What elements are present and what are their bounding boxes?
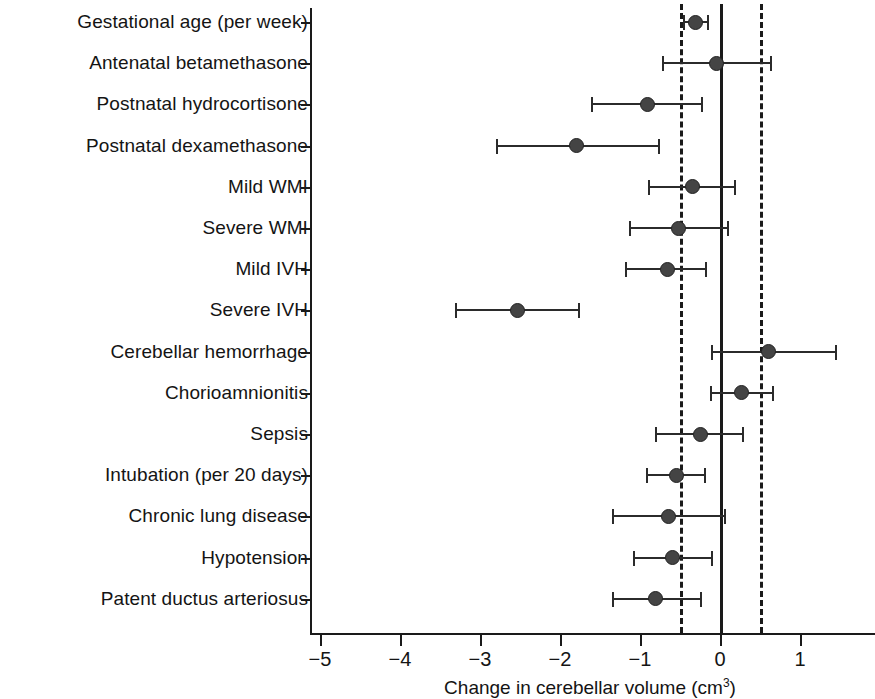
ci-upper-cap — [704, 468, 706, 483]
ci-lower-cap — [612, 509, 614, 524]
x-tick-label: −1 — [610, 648, 670, 671]
x-tick — [560, 635, 562, 646]
ci-lower-cap — [625, 262, 627, 277]
x-axis-label-suffix: ) — [730, 677, 736, 698]
x-tick-label: 0 — [690, 648, 750, 671]
x-tick — [720, 635, 722, 646]
y-tick — [301, 393, 311, 395]
point-estimate-marker — [510, 303, 525, 318]
lower-threshold-line — [680, 4, 683, 633]
y-tick — [301, 104, 311, 106]
ci-lower-cap — [710, 386, 712, 401]
ci-upper-cap — [707, 15, 709, 30]
ci-upper-cap — [772, 386, 774, 401]
y-tick — [301, 63, 311, 65]
x-tick — [400, 635, 402, 646]
x-tick-label: −3 — [450, 648, 510, 671]
y-tick — [301, 599, 311, 601]
y-tick — [301, 558, 311, 560]
y-tick — [301, 516, 311, 518]
point-estimate-marker — [685, 179, 700, 194]
x-axis-label-exponent: 3 — [723, 676, 730, 690]
x-tick-label: 1 — [770, 648, 830, 671]
y-tick — [301, 22, 311, 24]
ci-lower-cap — [646, 468, 648, 483]
ci-lower-cap — [655, 427, 657, 442]
ci-upper-cap — [727, 221, 729, 236]
point-estimate-marker — [669, 468, 684, 483]
ci-lower-cap — [612, 592, 614, 607]
null-effect-line — [720, 4, 723, 633]
x-axis-line — [310, 633, 875, 635]
ci-upper-cap — [770, 56, 772, 71]
forest-plot-figure: Clinical factor Gestational age (per wee… — [0, 0, 875, 699]
y-tick — [301, 352, 311, 354]
ci-lower-cap — [633, 551, 635, 566]
point-estimate-marker — [709, 56, 724, 71]
ci-upper-cap — [578, 303, 580, 318]
ci-upper-cap — [724, 509, 726, 524]
y-tick — [301, 146, 311, 148]
plot-area: −5−4−3−2−101 — [0, 0, 875, 699]
ci-upper-cap — [705, 262, 707, 277]
ci-lower-cap — [711, 345, 713, 360]
y-tick — [301, 269, 311, 271]
x-tick — [640, 635, 642, 646]
ci-upper-cap — [701, 97, 703, 112]
ci-lower-cap — [662, 56, 664, 71]
ci-upper-cap — [835, 345, 837, 360]
ci-lower-cap — [648, 180, 650, 195]
point-estimate-marker — [671, 221, 686, 236]
upper-threshold-line — [760, 4, 763, 633]
ci-lower-cap — [455, 303, 457, 318]
x-tick-label: −4 — [370, 648, 430, 671]
point-estimate-marker — [569, 138, 584, 153]
point-estimate-marker — [665, 550, 680, 565]
x-tick-label: −2 — [530, 648, 590, 671]
ci-upper-cap — [711, 551, 713, 566]
point-estimate-marker — [661, 509, 676, 524]
point-estimate-marker — [734, 385, 749, 400]
x-tick — [320, 635, 322, 646]
point-estimate-marker — [693, 427, 708, 442]
y-tick — [301, 475, 311, 477]
point-estimate-marker — [688, 15, 703, 30]
point-estimate-marker — [648, 591, 663, 606]
x-axis-label: Change in cerebellar volume (cm3) — [310, 676, 870, 699]
ci-lower-cap — [591, 97, 593, 112]
y-tick — [301, 228, 311, 230]
ci-upper-cap — [742, 427, 744, 442]
y-axis-line — [310, 8, 312, 633]
point-estimate-marker — [660, 262, 675, 277]
y-tick — [301, 187, 311, 189]
ci-upper-cap — [658, 139, 660, 154]
ci-upper-cap — [700, 592, 702, 607]
ci-upper-cap — [734, 180, 736, 195]
ci-lower-cap — [683, 15, 685, 30]
ci-lower-cap — [496, 139, 498, 154]
x-tick — [480, 635, 482, 646]
x-tick-label: −5 — [290, 648, 350, 671]
point-estimate-marker — [640, 97, 655, 112]
ci-lower-cap — [629, 221, 631, 236]
y-tick — [301, 434, 311, 436]
x-axis-label-text: Change in cerebellar volume (cm — [444, 677, 723, 698]
y-tick — [301, 310, 311, 312]
x-tick — [800, 635, 802, 646]
point-estimate-marker — [761, 344, 776, 359]
